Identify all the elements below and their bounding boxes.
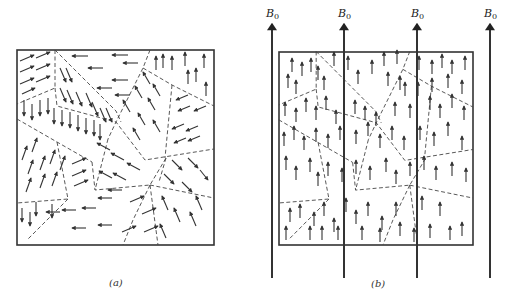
panel-b: B0 B0 B0 B0 (b) — [265, 7, 497, 289]
field-label-1: B0 — [265, 7, 279, 21]
domain-walls-a — [17, 50, 214, 245]
figure-canvas: (a) — [0, 0, 514, 302]
domain-walls-b — [279, 52, 473, 245]
panel-a: (a) — [17, 50, 214, 288]
sample-boundary-b — [279, 52, 473, 245]
field-lines-b0 — [272, 24, 490, 278]
field-labels-b0: B0 B0 B0 B0 — [265, 7, 497, 21]
magnetic-moments-a — [20, 52, 208, 238]
caption-b: (b) — [371, 278, 385, 289]
sample-boundary-a — [17, 50, 214, 245]
caption-a: (a) — [109, 277, 123, 288]
magnetic-moments-b — [284, 50, 466, 242]
field-label-2: B0 — [337, 7, 351, 21]
field-label-4: B0 — [483, 7, 497, 21]
field-label-3: B0 — [410, 7, 424, 21]
